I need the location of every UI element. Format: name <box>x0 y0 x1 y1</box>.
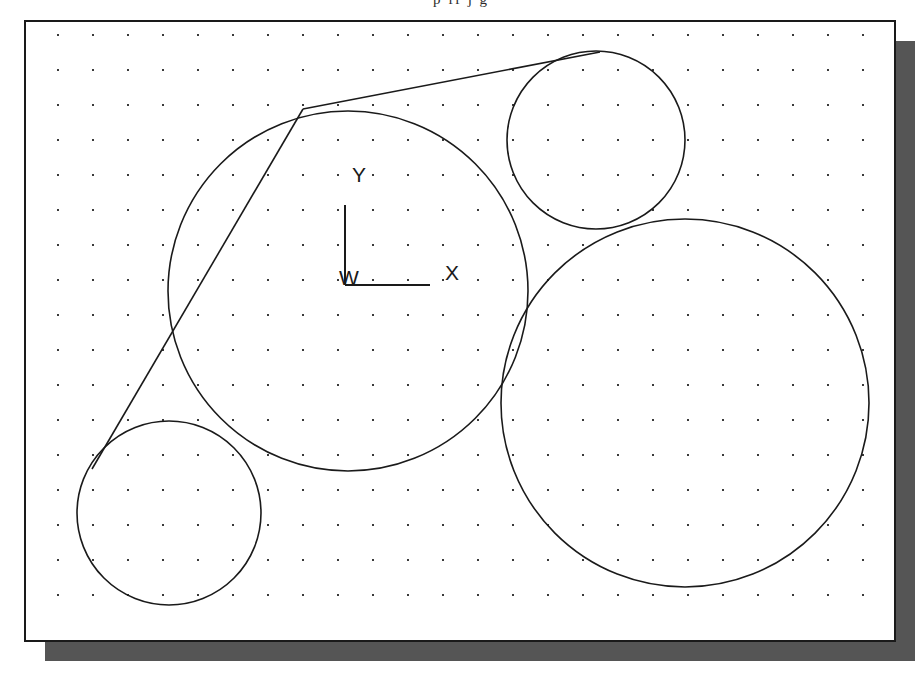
grid-dot <box>92 69 94 71</box>
grid-dot <box>547 314 549 316</box>
grid-dot <box>407 314 409 316</box>
grid-dot <box>337 69 339 71</box>
grid-dot <box>302 139 304 141</box>
grid-dot <box>407 104 409 106</box>
grid-dot <box>407 594 409 596</box>
grid-dot <box>92 314 94 316</box>
grid-dot <box>862 489 864 491</box>
grid-dot <box>582 524 584 526</box>
grid-dot <box>92 244 94 246</box>
grid-dot <box>267 279 269 281</box>
grid-dot <box>547 559 549 561</box>
grid-dot <box>547 419 549 421</box>
grid-dot <box>722 244 724 246</box>
grid-dot <box>512 139 514 141</box>
grid-dot <box>827 69 829 71</box>
grid-dot <box>512 279 514 281</box>
grid-dot <box>197 489 199 491</box>
grid-dot <box>92 139 94 141</box>
grid-dot <box>372 174 374 176</box>
grid-dot <box>442 69 444 71</box>
grid-dot <box>127 419 129 421</box>
grid-dot <box>372 104 374 106</box>
grid-dot <box>722 209 724 211</box>
grid-dot <box>232 419 234 421</box>
grid-dot <box>477 104 479 106</box>
grid-dot <box>127 174 129 176</box>
grid-dot <box>757 384 759 386</box>
grid-dot <box>197 139 199 141</box>
grid-dot <box>862 314 864 316</box>
grid-dot <box>722 69 724 71</box>
grid-dot <box>57 594 59 596</box>
grid-dot <box>512 559 514 561</box>
grid-dot <box>197 244 199 246</box>
grid-dot <box>722 314 724 316</box>
grid-dot <box>582 349 584 351</box>
grid-dot <box>57 209 59 211</box>
grid-dot <box>687 209 689 211</box>
grid-dot <box>757 594 759 596</box>
grid-dot <box>267 244 269 246</box>
grid-dot <box>337 454 339 456</box>
grid-dot <box>92 594 94 596</box>
grid-dot <box>232 349 234 351</box>
grid-dot <box>197 104 199 106</box>
grid-dot <box>127 209 129 211</box>
grid-dot <box>547 34 549 36</box>
grid-dot <box>477 34 479 36</box>
grid-dot <box>477 69 479 71</box>
grid-dot <box>57 139 59 141</box>
grid-dot <box>757 34 759 36</box>
grid-dot <box>757 174 759 176</box>
grid-dot <box>582 69 584 71</box>
grid-dot <box>197 384 199 386</box>
grid-dot <box>862 524 864 526</box>
grid-dot <box>617 34 619 36</box>
grid-dot <box>302 314 304 316</box>
grid-dot <box>687 454 689 456</box>
grid-dot <box>302 279 304 281</box>
grid-dot <box>687 174 689 176</box>
grid-dot <box>372 139 374 141</box>
grid-dot <box>792 594 794 596</box>
grid-dot <box>407 384 409 386</box>
grid-dot <box>827 174 829 176</box>
grid-dot <box>547 349 549 351</box>
grid-dot <box>652 489 654 491</box>
grid-dot <box>127 279 129 281</box>
grid-dot <box>477 279 479 281</box>
grid-dot <box>547 174 549 176</box>
grid-dot <box>337 489 339 491</box>
grid-dot <box>582 559 584 561</box>
grid-dot <box>652 524 654 526</box>
grid-dot <box>512 34 514 36</box>
grid-dot <box>232 69 234 71</box>
grid-dot <box>442 279 444 281</box>
grid-dot <box>477 419 479 421</box>
grid-dot <box>477 489 479 491</box>
grid-dot <box>57 314 59 316</box>
grid-dot <box>512 244 514 246</box>
grid-dot <box>232 104 234 106</box>
grid-dot <box>477 454 479 456</box>
grid-dot <box>337 419 339 421</box>
grid-dot <box>267 174 269 176</box>
grid-dot <box>337 594 339 596</box>
grid-dot <box>57 384 59 386</box>
grid-dot <box>477 314 479 316</box>
grid-dot <box>197 34 199 36</box>
grid-dot <box>862 34 864 36</box>
grid-dot <box>862 594 864 596</box>
grid-dot <box>722 594 724 596</box>
grid-dot <box>162 279 164 281</box>
grid-dot <box>302 419 304 421</box>
grid-dot <box>442 594 444 596</box>
grid-dot <box>617 454 619 456</box>
grid-dot <box>582 489 584 491</box>
grid-dot <box>687 69 689 71</box>
grid-dot <box>302 209 304 211</box>
grid-dot <box>197 524 199 526</box>
grid-dot <box>862 69 864 71</box>
grid-dot <box>757 489 759 491</box>
